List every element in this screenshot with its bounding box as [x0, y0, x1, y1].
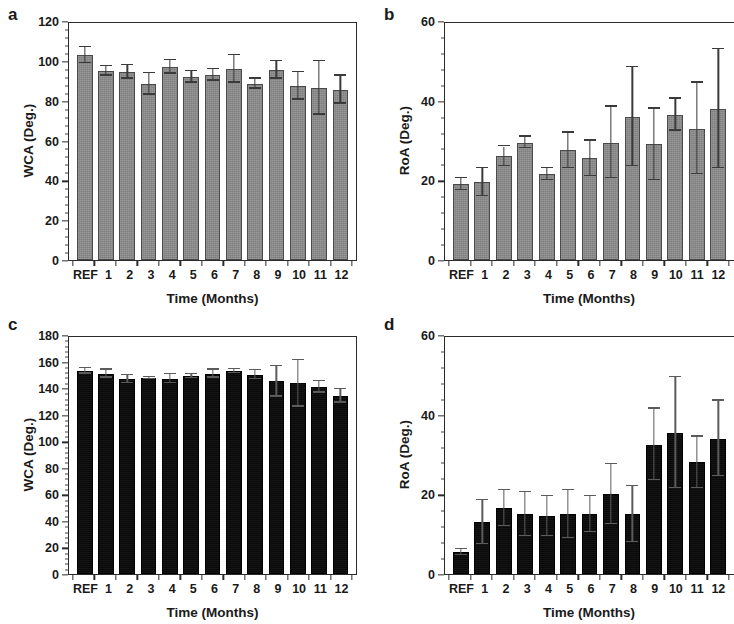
error-bar-cap-bottom	[455, 554, 467, 555]
y-axis-minor-tick	[65, 253, 69, 254]
bar-10	[290, 86, 306, 260]
x-axis-tick	[448, 261, 449, 266]
bar-group	[514, 337, 535, 574]
error-bar	[276, 366, 277, 397]
panel-letter-b: b	[384, 6, 394, 23]
error-bar	[546, 496, 547, 536]
x-axis-tick-label: 5	[183, 268, 204, 282]
x-axis-tick	[201, 575, 202, 580]
x-axis-tick	[223, 575, 224, 580]
bar-group	[308, 23, 329, 260]
y-axis-tick-label: 0	[428, 254, 435, 268]
error-bar-cap-bottom	[669, 487, 681, 488]
x-axis-tick-label: 12	[708, 582, 729, 596]
y-axis-tick	[62, 221, 68, 222]
y-axis-minor-tick	[441, 245, 445, 246]
error-bar-cap-bottom	[185, 81, 197, 82]
error-bar-cap-bottom	[121, 382, 133, 383]
y-axis-tick-label: 60	[45, 488, 59, 502]
panel-a-y-axis: 020406080100120	[0, 22, 68, 261]
x-axis-tick-label: 11	[310, 268, 331, 282]
bar-ref	[77, 371, 93, 574]
bar-group	[74, 23, 95, 260]
bar-4	[162, 67, 178, 260]
bar-ref	[453, 184, 469, 260]
error-bar-cap-bottom	[207, 79, 219, 80]
error-bar-cap-bottom	[584, 531, 596, 532]
error-bar	[482, 168, 483, 196]
x-axis-tick	[664, 575, 665, 580]
error-bar-cap-top	[79, 46, 91, 47]
y-axis-tick	[62, 21, 68, 22]
x-axis-tick-label: 7	[225, 582, 246, 596]
x-axis-tick	[578, 575, 579, 580]
error-bar-cap-bottom	[605, 177, 617, 178]
y-axis-tick-label: 60	[421, 15, 435, 29]
x-axis-tick-label: 11	[687, 268, 708, 282]
y-axis-minor-tick	[441, 85, 445, 86]
error-bar-cap-top	[100, 65, 112, 66]
y-axis-minor-tick	[65, 341, 69, 342]
y-axis-minor-tick	[441, 133, 445, 134]
panel-c-y-axis: 020406080100120140160180	[0, 336, 68, 575]
panel-b-x-axis-ticks	[444, 261, 734, 267]
x-axis-tick	[707, 261, 708, 266]
y-axis-minor-tick	[441, 351, 445, 352]
y-axis-minor-tick	[65, 133, 69, 134]
y-axis-tick	[62, 495, 68, 496]
bar-group	[117, 23, 138, 260]
error-bar-cap-top	[228, 368, 240, 369]
y-axis-tick-label: 120	[38, 15, 59, 29]
x-axis-tick-label: 9	[644, 268, 665, 282]
bar-7	[226, 371, 242, 574]
error-bar-cap-top	[143, 376, 155, 377]
x-axis-tick-label: 12	[331, 582, 352, 596]
y-axis-tick	[438, 101, 444, 102]
y-axis-minor-tick	[65, 564, 69, 565]
x-axis-tick-label: 11	[310, 582, 331, 596]
y-axis-minor-tick	[65, 511, 69, 512]
error-bar	[589, 141, 590, 177]
y-axis-minor-tick	[65, 426, 69, 427]
bar-group	[202, 337, 223, 574]
bar-3	[141, 84, 157, 260]
x-axis-tick-label: 8	[623, 582, 644, 596]
x-axis-tick-label: 2	[495, 582, 516, 596]
y-axis-tick-label: 160	[38, 356, 59, 370]
x-axis-tick	[115, 261, 116, 266]
bar-10	[290, 383, 306, 574]
y-axis-minor-tick	[441, 431, 445, 432]
panel-letter-c: c	[8, 316, 17, 333]
x-axis-tick	[578, 261, 579, 266]
x-axis-tick	[642, 575, 643, 580]
bar-group	[330, 337, 351, 574]
error-bar-cap-bottom	[455, 189, 467, 190]
error-bar-cap-bottom	[100, 376, 112, 377]
x-axis-tick	[180, 261, 181, 266]
bar-group	[181, 23, 202, 260]
x-axis-tick	[158, 575, 159, 580]
x-axis-tick	[556, 261, 557, 266]
x-axis-tick	[137, 261, 138, 266]
x-axis-tick	[351, 575, 352, 580]
bar-group	[74, 337, 95, 574]
error-bar-cap-top	[712, 399, 724, 400]
x-axis-tick	[556, 575, 557, 580]
bar-2	[496, 156, 512, 260]
y-axis-minor-tick	[65, 45, 69, 46]
error-bar-cap-top	[185, 70, 197, 71]
y-axis-tick	[438, 495, 444, 496]
y-axis-tick	[438, 21, 444, 22]
error-bar-cap-bottom	[519, 535, 531, 536]
error-bar-cap-bottom	[334, 401, 346, 402]
error-bar	[148, 73, 149, 95]
error-bar-cap-top	[313, 60, 325, 61]
error-bar	[610, 464, 611, 524]
error-bar-cap-bottom	[498, 165, 510, 166]
y-axis-minor-tick	[65, 452, 69, 453]
error-bar-cap-top	[270, 365, 282, 366]
y-axis-tick	[438, 335, 444, 336]
y-axis-minor-tick	[65, 463, 69, 464]
panel-d: d RoA (Deg.) 0204060 REF123456789101112 …	[378, 312, 728, 624]
